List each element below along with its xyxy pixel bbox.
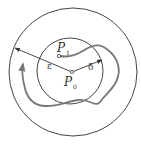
p0-label-main: P (64, 75, 72, 89)
p1-label-sub: 1 (66, 49, 70, 56)
p0-label-sub: 0 (73, 83, 77, 90)
stability-diagram (0, 0, 141, 144)
p0-label: P0 (64, 76, 76, 88)
p1-label: P1 (57, 42, 69, 54)
p0-point (70, 70, 73, 73)
p1-label-main: P (57, 41, 65, 55)
delta-label: δ (88, 63, 93, 72)
epsilon-label: ε (47, 62, 52, 71)
delta-radius-arrow (72, 60, 102, 72)
